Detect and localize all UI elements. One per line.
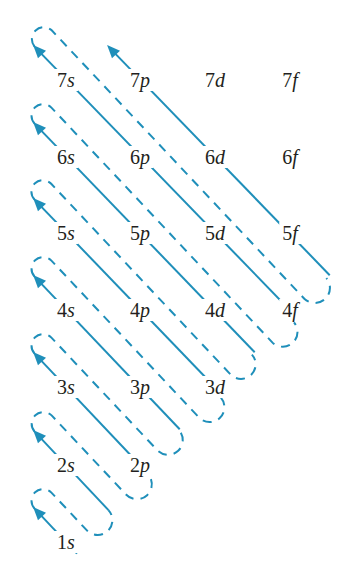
orbital-label-6d: 6d bbox=[202, 146, 228, 168]
orbital-label-5f: 5f bbox=[279, 222, 301, 244]
subshell-letter: s bbox=[67, 376, 75, 398]
orbital-label-1s: 1s bbox=[54, 531, 78, 553]
subshell-letter: d bbox=[215, 376, 225, 398]
principal-quantum-number: 1 bbox=[57, 531, 67, 553]
subshell-letter: p bbox=[140, 146, 150, 168]
subshell-letter: s bbox=[67, 299, 75, 321]
principal-quantum-number: 3 bbox=[205, 376, 215, 398]
orbital-label-4d: 4d bbox=[202, 299, 228, 321]
subshell-letter: s bbox=[67, 146, 75, 168]
principal-quantum-number: 4 bbox=[57, 299, 67, 321]
orbital-label-6s: 6s bbox=[54, 146, 78, 168]
principal-quantum-number: 7 bbox=[205, 69, 215, 91]
orbital-label-4p: 4p bbox=[127, 299, 153, 321]
subshell-letter: s bbox=[67, 222, 75, 244]
arrow-shaft-7 bbox=[39, 52, 298, 319]
orbital-label-7f: 7f bbox=[279, 69, 301, 91]
subshell-letter: f bbox=[292, 69, 298, 91]
subshell-letter: s bbox=[67, 454, 75, 476]
principal-quantum-number: 6 bbox=[282, 146, 292, 168]
orbital-label-5d: 5d bbox=[202, 222, 228, 244]
principal-quantum-number: 7 bbox=[130, 69, 140, 91]
principal-quantum-number: 6 bbox=[57, 146, 67, 168]
subshell-letter: f bbox=[292, 299, 298, 321]
subshell-letter: p bbox=[140, 454, 150, 476]
orbital-label-2p: 2p bbox=[127, 454, 153, 476]
orbital-label-4f: 4f bbox=[279, 299, 301, 321]
principal-quantum-number: 7 bbox=[57, 69, 67, 91]
subshell-letter: d bbox=[215, 146, 225, 168]
principal-quantum-number: 5 bbox=[205, 222, 215, 244]
subshell-letter: d bbox=[215, 69, 225, 91]
principal-quantum-number: 5 bbox=[57, 222, 67, 244]
subshell-letter: p bbox=[140, 299, 150, 321]
principal-quantum-number: 4 bbox=[282, 299, 292, 321]
orbital-label-4s: 4s bbox=[54, 299, 78, 321]
principal-quantum-number: 4 bbox=[205, 299, 215, 321]
principal-quantum-number: 3 bbox=[130, 376, 140, 398]
subshell-letter: s bbox=[67, 69, 75, 91]
orbital-label-3p: 3p bbox=[127, 376, 153, 398]
orbital-label-6p: 6p bbox=[127, 146, 153, 168]
orbital-label-5s: 5s bbox=[54, 222, 78, 244]
subshell-letter: p bbox=[140, 222, 150, 244]
orbital-label-3d: 3d bbox=[202, 376, 228, 398]
subshell-letter: d bbox=[215, 299, 225, 321]
principal-quantum-number: 6 bbox=[130, 146, 140, 168]
subshell-letter: f bbox=[292, 222, 298, 244]
subshell-letter: f bbox=[292, 146, 298, 168]
orbital-label-7d: 7d bbox=[202, 69, 228, 91]
orbital-label-7s: 7s bbox=[54, 69, 78, 91]
principal-quantum-number: 5 bbox=[130, 222, 140, 244]
subshell-letter: d bbox=[215, 222, 225, 244]
orbital-label-7p: 7p bbox=[127, 69, 153, 91]
principal-quantum-number: 5 bbox=[282, 222, 292, 244]
subshell-letter: s bbox=[67, 531, 75, 553]
principal-quantum-number: 4 bbox=[130, 299, 140, 321]
orbital-label-6f: 6f bbox=[279, 146, 301, 168]
principal-quantum-number: 2 bbox=[130, 454, 140, 476]
principal-quantum-number: 3 bbox=[57, 376, 67, 398]
orbital-label-5p: 5p bbox=[127, 222, 153, 244]
orbital-label-2s: 2s bbox=[54, 454, 78, 476]
principal-quantum-number: 7 bbox=[282, 69, 292, 91]
dashed-connector-5-to-6 bbox=[31, 180, 255, 379]
subshell-letter: p bbox=[140, 376, 150, 398]
orbital-label-3s: 3s bbox=[54, 376, 78, 398]
aufbau-diagram: 7s7p7d7f6s6p6d6f5s5p5d5f4s4p4d4f3s3p3d2s… bbox=[0, 0, 358, 578]
subshell-letter: p bbox=[140, 69, 150, 91]
principal-quantum-number: 2 bbox=[57, 454, 67, 476]
principal-quantum-number: 6 bbox=[205, 146, 215, 168]
